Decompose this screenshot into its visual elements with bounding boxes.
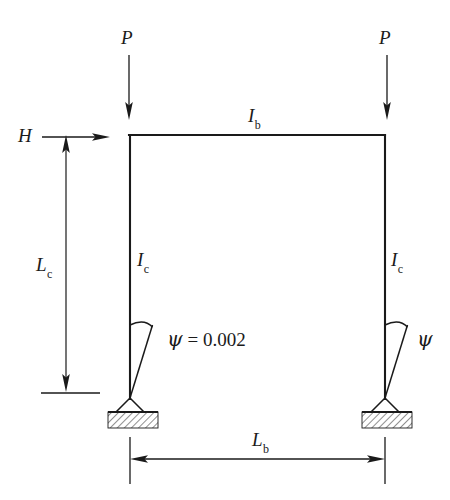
- left-column-inertia-subscript: c: [144, 262, 149, 276]
- left-column-inertia-label: Ic: [137, 250, 149, 272]
- right-support-assembly: [362, 322, 412, 428]
- column-length-label: Lc: [36, 255, 52, 277]
- lateral-load-arrow: [42, 133, 110, 141]
- right-load-arrow: [383, 55, 391, 120]
- left-support-assembly: [108, 322, 158, 428]
- beam-length-symbol: L: [252, 429, 263, 450]
- left-angle-arc: [130, 322, 153, 327]
- lateral-load-label: H: [18, 126, 32, 145]
- left-imperfection-line: [130, 325, 153, 398]
- right-angle-arc: [385, 322, 408, 327]
- right-column-inertia-subscript: c: [398, 262, 403, 276]
- column-length-subscript: c: [47, 267, 52, 281]
- right-column-inertia-symbol: I: [391, 249, 397, 270]
- psi-equals-left: =: [183, 329, 203, 350]
- right-load-label: P: [379, 28, 391, 47]
- right-foundation-hatch: [362, 412, 412, 428]
- psi-symbol-right: ψ: [417, 327, 433, 351]
- left-imperfection-label: ψ = 0.002: [167, 329, 246, 349]
- left-column-inertia-symbol: I: [137, 249, 143, 270]
- right-pin-support: [371, 398, 399, 412]
- right-imperfection-line: [385, 325, 408, 398]
- beam-length-label: Lb: [252, 430, 269, 452]
- column-length-symbol: L: [36, 254, 47, 275]
- psi-value-left: 0.002: [203, 329, 246, 350]
- right-imperfection-label: ψ: [417, 329, 433, 349]
- beam-inertia-subscript: b: [255, 118, 261, 132]
- beam-inertia-label: Ib: [248, 106, 260, 128]
- left-pin-support: [116, 398, 144, 412]
- left-load-arrow: [125, 55, 133, 120]
- left-load-label: P: [121, 28, 133, 47]
- beam-inertia-symbol: I: [248, 105, 254, 126]
- frame-outline: [129, 135, 385, 399]
- left-foundation-hatch: [108, 412, 158, 428]
- right-column-inertia-label: Ic: [391, 250, 403, 272]
- frame-drawing: [0, 0, 450, 500]
- beam-length-subscript: b: [263, 442, 269, 456]
- structural-frame-figure: P P H Ib Ic Ic Lc Lb ψ = 0.002 ψ: [0, 0, 450, 500]
- psi-symbol-left: ψ: [167, 327, 183, 351]
